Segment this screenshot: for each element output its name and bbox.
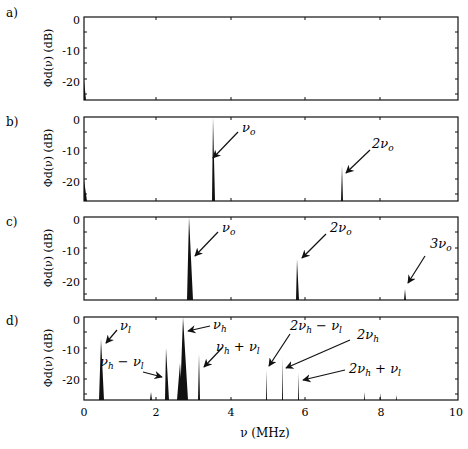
arrow <box>346 150 370 173</box>
x-axis-label: ν (MHz) <box>240 426 290 440</box>
y-axis-label: Φd(ν) (dB) <box>42 229 55 288</box>
svg-text:-20: -20 <box>62 374 80 387</box>
svg-text:2νo: 2νo <box>329 220 352 237</box>
plot-frame <box>84 217 458 300</box>
svg-text:-10: -10 <box>62 245 80 258</box>
plot-frame <box>84 117 458 201</box>
svg-text:-20: -20 <box>62 276 80 289</box>
svg-text:νo: νo <box>242 120 256 137</box>
spectrum <box>99 317 397 400</box>
svg-text:10: 10 <box>449 406 463 419</box>
svg-text:0: 0 <box>73 14 80 27</box>
svg-text:3νo: 3νo <box>430 236 452 253</box>
panel-c: c) 0 -10 -20 Φd(ν) (dB) νo 2νo 3νo <box>6 214 458 300</box>
svg-text:-10: -10 <box>62 344 80 357</box>
x-ticks: 0 2 4 6 8 10 <box>81 406 464 419</box>
svg-text:-10: -10 <box>62 145 80 158</box>
tick-marks <box>84 17 458 400</box>
svg-text:νh + νl: νh + νl <box>216 339 260 356</box>
svg-text:-20: -20 <box>62 76 80 89</box>
spectrum <box>84 117 343 201</box>
figure: a) 0 -10 -20 Φd(ν) (dB) b) 0 -10 -20 Φd(… <box>0 0 468 449</box>
svg-text:0: 0 <box>73 314 80 327</box>
spectrum <box>187 217 406 300</box>
panel-label-b: b) <box>6 115 18 129</box>
svg-text:-10: -10 <box>62 45 80 58</box>
svg-text:0: 0 <box>73 114 80 127</box>
svg-text:6: 6 <box>302 406 309 419</box>
y-ticks: 0 -10 -20 <box>62 14 80 89</box>
panel-label-d: d) <box>6 314 18 328</box>
arrow <box>213 132 238 158</box>
panel-a: a) 0 -10 -20 Φd(ν) (dB) <box>6 6 458 100</box>
svg-text:νo: νo <box>222 220 236 237</box>
svg-text:4: 4 <box>228 406 235 419</box>
panel-d: d) 0 -10 -20 Φd(ν) (dB) νl νh − νl νh νh… <box>6 314 463 440</box>
svg-text:2: 2 <box>153 406 160 419</box>
panel-b: b) 0 -10 -20 Φd(ν) (dB) νo 2νo <box>6 114 458 201</box>
svg-text:2νh: 2νh <box>356 327 379 344</box>
svg-text:8: 8 <box>378 406 385 419</box>
svg-text:0: 0 <box>81 406 88 419</box>
panel-label-a: a) <box>6 6 18 20</box>
svg-text:νh: νh <box>213 317 227 334</box>
svg-text:2νo: 2νo <box>371 136 394 153</box>
panel-label-c: c) <box>6 215 17 229</box>
svg-text:2νh + νl: 2νh + νl <box>348 361 401 378</box>
svg-text:νh − νl: νh − νl <box>100 354 144 371</box>
svg-text:0: 0 <box>73 214 80 227</box>
svg-text:νl: νl <box>120 318 131 335</box>
svg-text:2νh − νl: 2νh − νl <box>289 318 342 335</box>
y-axis-label: Φd(ν) (dB) <box>42 29 55 88</box>
y-axis-label: Φd(ν) (dB) <box>42 129 55 188</box>
plot-frame <box>84 17 458 100</box>
svg-text:-20: -20 <box>62 176 80 189</box>
y-axis-label: Φd(ν) (dB) <box>42 329 55 388</box>
